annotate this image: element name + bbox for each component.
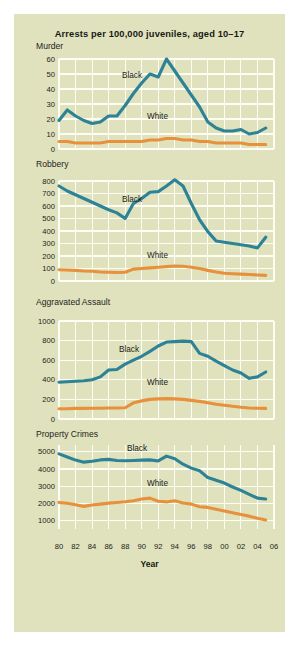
svg-text:800: 800 bbox=[42, 177, 55, 186]
x-tick-label: 02 bbox=[237, 542, 245, 551]
svg-text:600: 600 bbox=[42, 202, 55, 211]
figure-title: Arrests per 100,000 juveniles, aged 10–1… bbox=[14, 14, 285, 41]
svg-text:0: 0 bbox=[51, 277, 55, 286]
svg-text:2000: 2000 bbox=[38, 499, 55, 508]
x-tick-label: 96 bbox=[187, 542, 195, 551]
chart-svg-aggravated-assault: 02004006008001000BlackWhite bbox=[14, 297, 285, 429]
svg-text:1000: 1000 bbox=[38, 516, 55, 525]
series-label-black: Black bbox=[127, 444, 148, 453]
x-tick-label: 84 bbox=[88, 542, 96, 551]
svg-text:200: 200 bbox=[42, 252, 55, 261]
svg-text:3000: 3000 bbox=[38, 482, 55, 491]
svg-text:4000: 4000 bbox=[38, 465, 55, 474]
x-tick-label: 92 bbox=[154, 542, 162, 551]
svg-text:10: 10 bbox=[47, 130, 55, 139]
svg-text:0: 0 bbox=[51, 415, 55, 424]
series-label-white: White bbox=[147, 378, 168, 387]
x-tick-label: 00 bbox=[220, 542, 228, 551]
chart-svg-property-crimes: 10002000300040005000BlackWhite bbox=[14, 429, 285, 539]
x-tick-label: 90 bbox=[137, 542, 145, 551]
svg-text:100: 100 bbox=[42, 264, 55, 273]
series-label-black: Black bbox=[122, 71, 143, 80]
svg-text:5000: 5000 bbox=[38, 447, 55, 456]
chart-svg-murder: 0102030405060BlackWhite bbox=[14, 41, 285, 159]
svg-text:30: 30 bbox=[47, 100, 55, 109]
series-label-white: White bbox=[147, 251, 168, 260]
svg-text:50: 50 bbox=[47, 70, 55, 79]
x-axis-title: Year bbox=[14, 559, 285, 569]
svg-text:400: 400 bbox=[42, 375, 55, 384]
x-axis-ticks: 8082848688909294969800020406 bbox=[14, 539, 285, 557]
svg-text:0: 0 bbox=[51, 145, 55, 154]
x-tick-label: 82 bbox=[71, 542, 79, 551]
chart-panel-property-crimes: Property Crimes 10002000300040005000Blac… bbox=[14, 429, 285, 539]
svg-text:20: 20 bbox=[47, 115, 55, 124]
x-tick-label: 88 bbox=[121, 542, 129, 551]
x-tick-label: 04 bbox=[253, 542, 261, 551]
chart-svg-robbery: 0100200300400500600700800BlackWhite bbox=[14, 159, 285, 297]
chart-panel-aggravated-assault: Aggravated Assault 02004006008001000Blac… bbox=[14, 297, 285, 429]
series-label-black: Black bbox=[119, 345, 140, 354]
chart-panel-robbery: Robbery 0100200300400500600700800BlackWh… bbox=[14, 159, 285, 297]
panel-title-robbery: Robbery bbox=[36, 159, 68, 169]
x-tick-label: 86 bbox=[104, 542, 112, 551]
chart-panel-murder: Murder 0102030405060BlackWhite bbox=[14, 41, 285, 159]
series-label-white: White bbox=[147, 112, 168, 121]
series-label-black: Black bbox=[122, 195, 143, 204]
svg-text:600: 600 bbox=[42, 356, 55, 365]
figure-panel: Arrests per 100,000 juveniles, aged 10–1… bbox=[14, 14, 285, 632]
svg-text:300: 300 bbox=[42, 239, 55, 248]
panel-title-property-crimes: Property Crimes bbox=[36, 429, 98, 439]
x-tick-label: 06 bbox=[270, 542, 278, 551]
panel-title-murder: Murder bbox=[36, 41, 63, 51]
svg-text:40: 40 bbox=[47, 85, 55, 94]
svg-text:800: 800 bbox=[42, 336, 55, 345]
x-axis-area: 8082848688909294969800020406 Year bbox=[14, 539, 285, 583]
x-tick-label: 80 bbox=[55, 542, 63, 551]
series-label-white: White bbox=[147, 479, 168, 488]
svg-text:700: 700 bbox=[42, 189, 55, 198]
svg-text:60: 60 bbox=[47, 55, 55, 64]
svg-text:400: 400 bbox=[42, 227, 55, 236]
svg-text:200: 200 bbox=[42, 395, 55, 404]
panel-title-aggravated-assault: Aggravated Assault bbox=[36, 297, 110, 307]
x-tick-label: 94 bbox=[171, 542, 179, 551]
svg-text:500: 500 bbox=[42, 214, 55, 223]
svg-text:1000: 1000 bbox=[38, 317, 55, 326]
x-tick-label: 98 bbox=[204, 542, 212, 551]
